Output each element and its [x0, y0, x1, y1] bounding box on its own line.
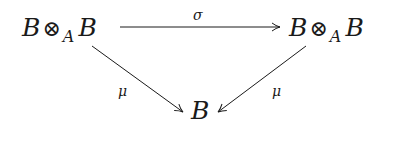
mu-left-arrow — [92, 46, 183, 112]
mu-left-label: μ — [118, 84, 127, 98]
base: B — [191, 96, 209, 125]
node-top-right: B⊗AB — [289, 15, 364, 40]
tensor-symbol: ⊗ — [309, 16, 327, 41]
base: B — [22, 13, 40, 42]
mu-right-label: μ — [272, 84, 281, 98]
tensor-symbol: ⊗ — [42, 16, 60, 41]
subscript: A — [330, 27, 342, 46]
base: B — [289, 13, 307, 42]
base2: B — [78, 13, 96, 42]
subscript: A — [63, 27, 75, 46]
node-bottom: B — [191, 98, 209, 123]
node-top-left: B⊗AB — [22, 15, 97, 40]
base2: B — [345, 13, 363, 42]
sigma-label: σ — [193, 8, 203, 22]
mu-right-arrow — [218, 46, 306, 112]
